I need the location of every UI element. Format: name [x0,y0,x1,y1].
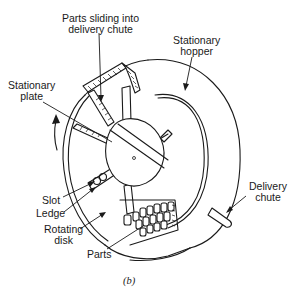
label-line: Parts [87,249,112,260]
figure-caption: (b) [123,275,135,286]
stationary-plate-shape [106,119,168,186]
label-line: plate [8,91,55,102]
label-rotating-disk: Rotating disk [44,224,83,246]
rotation-arrow-icon [52,114,60,150]
label-stationary-hopper: Stationary hopper [173,35,220,57]
label-line: delivery chute [62,24,139,35]
label-line: Ledge [36,208,65,219]
label-stationary-plate: Stationary plate [8,80,55,102]
label-parts: Parts [87,249,112,260]
top-chute [83,63,140,93]
label-line: chute [249,192,287,203]
label-line: disk [44,235,83,246]
label-line: Slot [42,195,60,206]
rotary-parts-feeder-diagram: Parts sliding into delivery chute Statio… [0,0,295,292]
feeder-drawing [0,0,295,292]
label-slot: Slot [42,195,60,206]
label-parts-sliding: Parts sliding into delivery chute [62,13,139,35]
label-line: hopper [173,46,220,57]
label-ledge: Ledge [36,208,65,219]
label-delivery-chute: Delivery chute [249,181,287,203]
